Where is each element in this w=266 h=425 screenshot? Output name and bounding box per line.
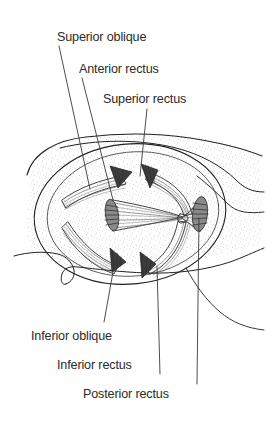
label-superior-oblique: Superior oblique: [57, 30, 146, 44]
label-inferior-oblique: Inferior oblique: [31, 329, 112, 343]
skull-mass: [14, 132, 264, 330]
leader-inferior-rectus: [157, 266, 160, 374]
orbit-muscles-illustration: Superior oblique Anterior rectus Superio…: [0, 0, 266, 425]
label-superior-rectus: Superior rectus: [103, 92, 186, 106]
anatomical-figure: Superior oblique Anterior rectus Superio…: [0, 0, 266, 425]
label-anterior-rectus: Anterior rectus: [79, 62, 159, 76]
label-posterior-rectus: Posterior rectus: [83, 387, 169, 401]
label-inferior-rectus: Inferior rectus: [57, 358, 132, 372]
